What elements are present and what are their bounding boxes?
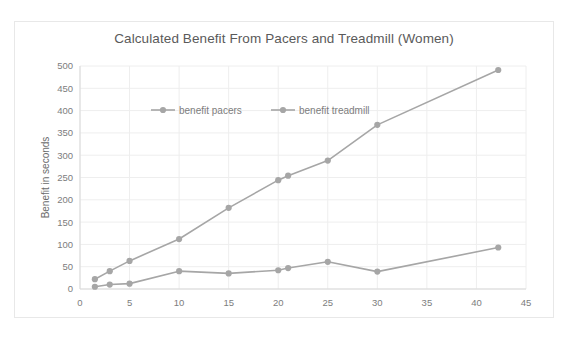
data-point-marker[interactable] (107, 281, 113, 287)
legend-label: benefit treadmill (299, 105, 370, 116)
y-tick-label: 500 (57, 60, 73, 71)
y-tick-label: 450 (57, 83, 73, 94)
legend-item-benefit-pacers[interactable]: benefit pacers (151, 105, 242, 116)
data-point-marker[interactable] (226, 270, 232, 276)
y-tick-label: 300 (57, 150, 73, 161)
x-tick-label: 25 (322, 297, 333, 308)
y-tick-label: 50 (62, 261, 73, 272)
series-benefit-treadmill[interactable] (92, 67, 502, 282)
data-point-marker[interactable] (92, 284, 98, 290)
x-axis-title: Distance in km (270, 318, 336, 319)
chart-plot-area: 050100150200250300350400450500 051015202… (15, 22, 555, 319)
data-point-marker[interactable] (176, 268, 182, 274)
x-tick-label: 40 (471, 297, 482, 308)
y-tick-label: 150 (57, 217, 73, 228)
y-tick-label: 250 (57, 172, 73, 183)
y-tick-label: 0 (68, 283, 73, 294)
y-axis-title: Benefit in seconds (40, 137, 51, 219)
data-point-marker[interactable] (495, 67, 501, 73)
x-tick-label: 45 (521, 297, 532, 308)
x-tick-label: 30 (372, 297, 383, 308)
chart-card: Calculated Benefit From Pacers and Tread… (14, 21, 554, 318)
data-point-marker[interactable] (374, 122, 380, 128)
y-tick-label: 350 (57, 127, 73, 138)
data-point-marker[interactable] (285, 173, 291, 179)
legend-item-benefit-treadmill[interactable]: benefit treadmill (271, 105, 370, 116)
x-tick-label: 0 (77, 297, 82, 308)
y-axis-tick-labels: 050100150200250300350400450500 (57, 60, 73, 294)
data-series-group (92, 67, 502, 290)
legend-swatch-marker (280, 107, 286, 113)
x-tick-label: 5 (127, 297, 132, 308)
x-tick-label: 20 (273, 297, 284, 308)
series-line (95, 70, 498, 279)
x-tick-label: 15 (223, 297, 234, 308)
data-point-marker[interactable] (374, 269, 380, 275)
y-tick-label: 400 (57, 105, 73, 116)
data-point-marker[interactable] (126, 281, 132, 287)
data-point-marker[interactable] (285, 265, 291, 271)
data-point-marker[interactable] (126, 258, 132, 264)
data-point-marker[interactable] (325, 259, 331, 265)
data-point-marker[interactable] (325, 157, 331, 163)
data-point-marker[interactable] (107, 268, 113, 274)
y-tick-label: 200 (57, 194, 73, 205)
data-point-marker[interactable] (275, 267, 281, 273)
legend-label: benefit pacers (179, 105, 242, 116)
data-point-marker[interactable] (92, 276, 98, 282)
x-tick-label: 35 (422, 297, 433, 308)
data-point-marker[interactable] (226, 205, 232, 211)
x-axis-tick-labels: 051015202530354045 (77, 297, 531, 308)
data-point-marker[interactable] (495, 244, 501, 250)
data-point-marker[interactable] (176, 236, 182, 242)
legend-swatch-marker (160, 107, 166, 113)
y-tick-label: 100 (57, 239, 73, 250)
data-point-marker[interactable] (275, 177, 281, 183)
x-tick-label: 10 (174, 297, 185, 308)
